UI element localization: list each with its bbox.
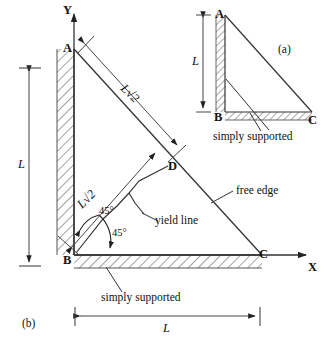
- inset-vertex-label-C: C: [308, 114, 317, 127]
- left-support-hatch: [57, 49, 74, 255]
- inset-plate-outline: [225, 15, 312, 112]
- annotation-simply-supported-inset: simply supported: [213, 131, 293, 143]
- yield-line-path: [76, 166, 168, 253]
- vertex-label-C: C: [259, 248, 268, 261]
- dimension-label-horizontal-L: L: [163, 322, 170, 335]
- vertex-label-B: B: [63, 254, 71, 267]
- yield-line-figure: Y X A B C D L L L√2 L√2 45° 45° yield li…: [0, 0, 330, 348]
- annotation-yield-line: yield line: [155, 215, 198, 227]
- inset-left-support-hatch: [216, 15, 225, 112]
- bottom-support-hatch: [74, 255, 262, 268]
- inset-bottom-support-hatch: [225, 112, 312, 120]
- annotation-simply-supported-main: simply supported: [101, 292, 181, 304]
- angle-label-upper: 45°: [99, 206, 114, 217]
- vertex-label-A: A: [63, 42, 72, 55]
- axis-label-x: X: [308, 261, 317, 274]
- inset-vertex-label-A: A: [215, 8, 224, 21]
- panel-label-a: (a): [278, 44, 291, 56]
- vertex-label-D: D: [168, 160, 177, 173]
- inset-yield-line: [226, 79, 269, 130]
- dimension-label-vertical-L: L: [18, 158, 25, 171]
- free-edge-leader: [211, 191, 233, 203]
- angle-arc-lower: [99, 215, 111, 248]
- inset-dimension-label-L: L: [192, 55, 199, 68]
- angle-label-lower: 45°: [112, 228, 127, 239]
- panel-label-b: (b): [22, 318, 35, 330]
- inset-vertex-label-B: B: [214, 111, 222, 124]
- annotation-free-edge: free edge: [236, 185, 278, 197]
- simply-supported-leader-main: [106, 267, 122, 292]
- axis-label-y: Y: [63, 4, 72, 17]
